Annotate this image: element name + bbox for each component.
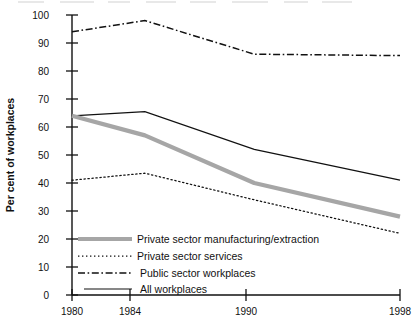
legend-item-private-sector-services: Private sector services (78, 250, 243, 262)
y-tick-label: 50 (38, 150, 50, 161)
legend-item-public-sector-workplaces: Public sector workplaces (78, 267, 256, 279)
x-tick-label: 1984 (119, 306, 142, 317)
x-tick-label: 1980 (61, 306, 84, 317)
scan-noise-band (18, 1, 352, 3)
legend-label: Private sector manufacturing/extraction (137, 233, 319, 245)
y-tick-label: 90 (38, 38, 50, 49)
y-tick-label: 30 (38, 206, 50, 217)
x-tick-label: 1990 (235, 306, 258, 317)
y-tick-label: 0 (43, 290, 49, 301)
legend-label: All workplaces (140, 283, 207, 295)
series-private-sector-manufacturing-extraction (72, 116, 400, 217)
y-axis-label: Per cent of workplaces (4, 98, 16, 213)
y-axis-tick-labels: 100 90 80 70 60 50 40 30 20 10 0 (32, 10, 49, 301)
legend-item-private-sector-manufacturing-extraction: Private sector manufacturing/extraction (78, 233, 319, 245)
legend-label: Private sector services (137, 250, 243, 262)
y-tick-label: 80 (38, 66, 50, 77)
y-tick-label: 20 (38, 234, 50, 245)
x-tick-label: 1998 (389, 306, 412, 317)
series-public-sector-workplaces (72, 21, 400, 56)
series-group (72, 21, 400, 234)
chart-figure: Per cent of workplaces 100 90 80 70 60 5… (0, 0, 413, 329)
y-tick-label: 10 (38, 262, 50, 273)
legend-item-all-workplaces: All workplaces (84, 283, 207, 295)
x-axis-tick-labels: 1980 1984 1990 1998 (61, 306, 412, 317)
y-tick-label: 40 (38, 178, 50, 189)
series-all-workplaces (72, 112, 400, 181)
y-tick-label: 70 (38, 94, 50, 105)
y-tick-label: 100 (32, 10, 49, 21)
line-chart-svg: Per cent of workplaces 100 90 80 70 60 5… (0, 0, 413, 329)
y-tick-label: 60 (38, 122, 50, 133)
chart-legend: Private sector manufacturing/extraction … (78, 233, 319, 295)
legend-label: Public sector workplaces (140, 267, 256, 279)
